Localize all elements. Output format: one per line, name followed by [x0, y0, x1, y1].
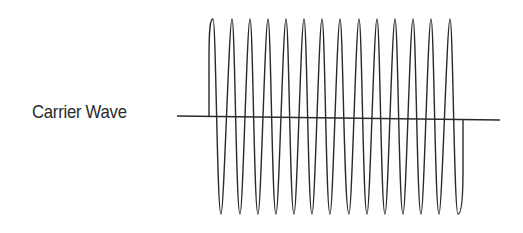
carrier-wave-diagram: Carrier Wave — [0, 0, 523, 233]
baseline-axis — [177, 116, 500, 120]
carrier-wave-graphic — [0, 0, 523, 233]
